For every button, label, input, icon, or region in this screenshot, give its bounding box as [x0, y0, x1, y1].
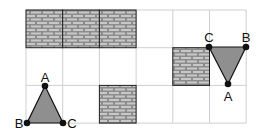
vertex-point-a	[225, 81, 232, 88]
brick-wall-cell	[63, 10, 100, 48]
brick-wall-cell	[99, 10, 136, 48]
brick-wall-cell	[173, 48, 210, 86]
vertex-point-b	[24, 120, 31, 127]
vertex-label-b: B	[242, 30, 251, 45]
triangle-shape	[209, 47, 246, 84]
vertex-label-a: A	[224, 89, 233, 104]
triangle-right: CBA	[204, 30, 250, 104]
brick-wall-cell	[99, 85, 136, 123]
grid-diagram: ABCCBA	[0, 0, 261, 132]
vertex-label-a: A	[41, 70, 50, 85]
vertex-label-c: C	[204, 30, 213, 45]
brick-wall-cell	[26, 10, 63, 48]
vertex-point-c	[60, 120, 67, 127]
triangle-left: ABC	[15, 70, 77, 131]
triangle-shape	[27, 86, 63, 123]
vertex-label-b: B	[15, 116, 24, 131]
vertex-label-c: C	[67, 116, 76, 131]
